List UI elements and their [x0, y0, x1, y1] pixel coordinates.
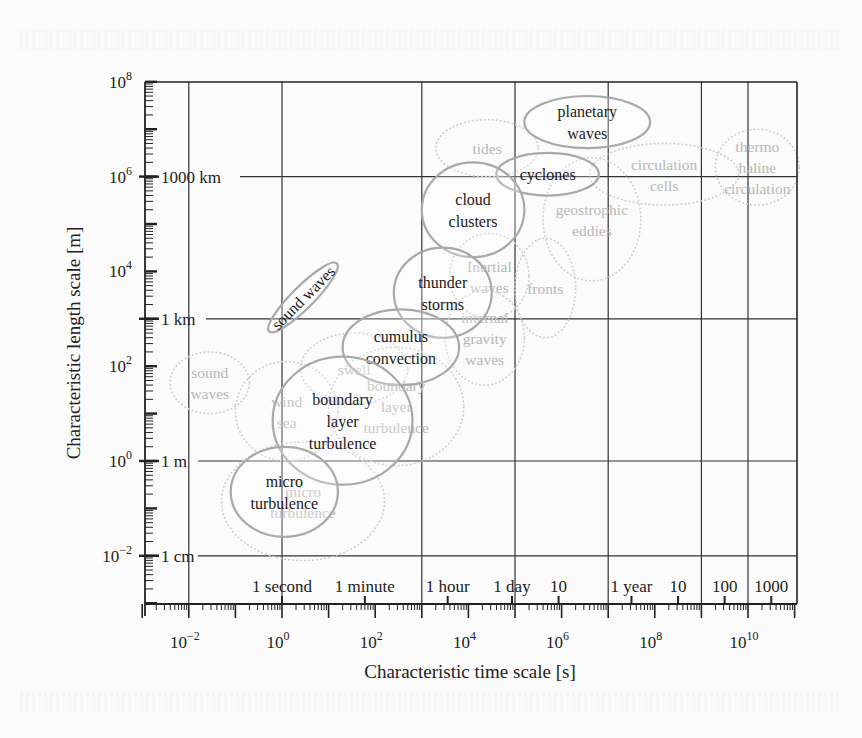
phenomenon-ellipse — [231, 447, 338, 537]
phenomenon-label: turbulence — [251, 495, 319, 512]
phenomenon-label: gravity — [463, 330, 507, 347]
y-named-tick-label: 1000 km — [161, 168, 221, 187]
x-named-tick-label: 1 second — [252, 577, 312, 596]
phenomenon-label: cyclones — [520, 166, 576, 184]
phenomenon-label: sound waves — [268, 263, 338, 333]
x-tick-label: 106 — [546, 629, 569, 652]
phenomenon-label: micro — [266, 473, 303, 490]
y-tick-label: 102 — [109, 353, 132, 376]
y-named-tick-label: 1 m — [161, 452, 187, 471]
y-tick-label: 10−2 — [102, 543, 132, 566]
phenomenon-label: geostrophic — [556, 201, 628, 218]
phenomenon-label: turbulence — [309, 435, 377, 452]
phenomenon-label: cells — [650, 177, 678, 194]
phenomenon-label: planetary — [557, 103, 617, 121]
y-named-tick-label: 1 km — [161, 310, 195, 329]
phenomenon-ellipse — [422, 162, 525, 257]
phenomenon-label: boundary — [312, 391, 372, 409]
phenomenon-label: waves — [567, 125, 607, 142]
phenomenon-micro-turbulence: microturbulence — [231, 447, 338, 537]
phenomenon-label: clusters — [449, 213, 498, 230]
x-tick-label: 108 — [639, 629, 662, 652]
y-axis-ticks: 10810610410210010−21000 km1 km1 m1 cm — [102, 69, 221, 603]
x-named-tick-label: 1 day — [493, 577, 531, 596]
page-bleed-through-bottom — [20, 692, 840, 712]
phenomenon-label: thermo — [735, 138, 779, 155]
scale-diagram-chart: tidescirculationcellsthermohalinecircula… — [0, 0, 862, 738]
y-tick-label: 100 — [109, 448, 132, 471]
phenomenon-label: cloud — [455, 191, 491, 208]
x-tick-label: 102 — [360, 629, 383, 652]
x-tick-label: 10−2 — [170, 629, 200, 652]
phenomenon-label: thunder — [418, 274, 468, 291]
x-axis-label: Characteristic time scale [s] — [364, 661, 576, 682]
y-axis-label: Characteristic length scale [m] — [63, 227, 84, 460]
phenomenon-planetary-waves: planetarywaves — [524, 96, 650, 148]
phenomenon-label: cumulus — [374, 328, 428, 345]
phenomenon-label: fronts — [527, 280, 563, 297]
phenomenon-cloud-clusters: cloudclusters — [422, 162, 525, 257]
phenomenon-fronts: fronts — [515, 238, 576, 338]
x-named-tick-label: 10 — [550, 577, 567, 596]
y-tick-label: 104 — [109, 258, 132, 281]
phenomenon-thermo-haline-circulation: thermohalinecirculation — [715, 129, 799, 205]
x-tick-label: 100 — [267, 629, 290, 652]
x-named-tick-label: 1 minute — [335, 577, 395, 596]
x-named-tick-label: 1000 — [754, 577, 788, 596]
atmosphere-phenomena: planetarywavescyclonescloudclustersthund… — [231, 96, 650, 537]
phenomenon-ellipse — [170, 352, 249, 414]
page-bleed-through-top — [20, 30, 840, 50]
figure-page: tidescirculationcellsthermohalinecircula… — [0, 0, 862, 738]
x-tick-label: 1010 — [730, 629, 759, 652]
phenomenon-ellipse — [590, 143, 739, 205]
phenomenon-label: storms — [421, 296, 464, 313]
y-named-tick-label: 1 cm — [161, 547, 195, 566]
phenomenon-circulation-cells: circulationcells — [590, 143, 739, 205]
x-named-tick-label: 1 hour — [426, 577, 470, 596]
y-tick-label: 108 — [109, 69, 132, 92]
phenomenon-label: layer — [327, 413, 360, 431]
phenomenon-label: eddies — [572, 222, 612, 239]
phenomenon-label: circulation — [631, 156, 698, 173]
x-tick-label: 104 — [453, 629, 476, 652]
phenomenon-sound-waves: soundwaves — [170, 352, 249, 414]
x-named-tick-label: 1 year — [610, 577, 652, 596]
x-named-tick-label: 100 — [712, 577, 738, 596]
phenomenon-label: sound — [191, 364, 228, 381]
phenomenon-sound-waves: sound waves — [261, 256, 344, 339]
phenomenon-label: waves — [465, 351, 504, 368]
phenomenon-label: waves — [190, 385, 229, 402]
x-named-tick-label: 10 — [670, 577, 687, 596]
phenomenon-label: circulation — [724, 180, 791, 197]
phenomenon-label: haline — [738, 159, 776, 176]
phenomenon-label: tides — [472, 140, 501, 157]
y-tick-label: 106 — [109, 164, 132, 187]
x-axis-ticks: 10−210010210410610810101 second1 minute1… — [142, 577, 794, 652]
